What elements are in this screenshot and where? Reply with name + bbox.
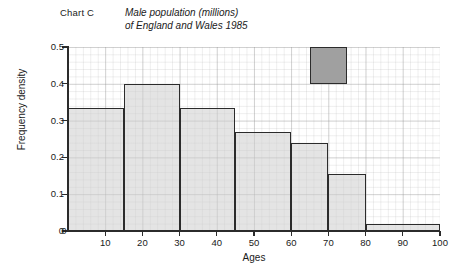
x-axis-title: Ages [68, 252, 440, 263]
y-tick-label: 0.4 [51, 79, 64, 89]
y-tick-label: 0.5 [51, 42, 64, 52]
bar-15-30 [124, 84, 180, 231]
x-tick-label: 90 [388, 237, 418, 248]
key-square [310, 47, 347, 84]
bar-0-15 [68, 108, 124, 231]
x-tick [291, 231, 292, 236]
x-tick-label: 30 [165, 237, 195, 248]
x-tick-label: 50 [239, 237, 269, 248]
x-tick [253, 231, 254, 236]
x-tick-label: 20 [127, 237, 157, 248]
bar-45-60 [235, 132, 291, 231]
bar-30-45 [180, 108, 236, 231]
x-tick-label: 0 [49, 225, 79, 236]
x-tick-label: 70 [313, 237, 343, 248]
x-tick-label: 80 [351, 237, 381, 248]
y-tick-label: 0.3 [51, 116, 64, 126]
bar-60-70 [291, 143, 328, 231]
y-tick-label: 0.2 [51, 152, 64, 162]
y-tick-label: 0.1 [51, 189, 64, 199]
x-tick-label: 60 [276, 237, 306, 248]
x-tick-label: 10 [90, 237, 120, 248]
x-tick [179, 231, 180, 236]
x-tick-label: 40 [202, 237, 232, 248]
bar-70-80 [328, 174, 365, 231]
histogram-plot: 00.10.20.30.40.5 0102030405060708090100 … [0, 0, 468, 273]
x-tick [402, 231, 403, 236]
y-axis-line [67, 46, 69, 232]
x-tick [365, 231, 366, 236]
x-tick [216, 231, 217, 236]
x-tick [328, 231, 329, 236]
x-tick [439, 231, 440, 236]
x-tick-label: 100 [425, 237, 455, 248]
x-tick [105, 231, 106, 236]
y-axis-title: Frequency density [16, 45, 27, 175]
x-tick [142, 231, 143, 236]
